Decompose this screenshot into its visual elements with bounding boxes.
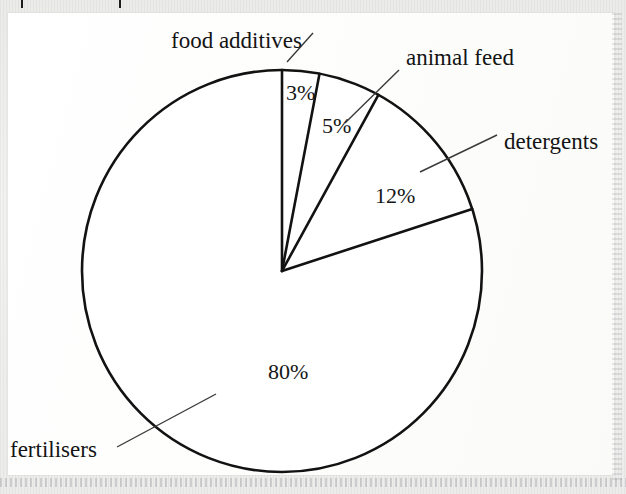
category-label-detergents: detergents [504, 129, 598, 154]
value-label-animal-feed: 5% [322, 113, 351, 138]
pie-chart-screenshot: food additives animal feed detergents fe… [0, 0, 626, 494]
category-label-fertilisers: fertilisers [10, 437, 97, 462]
value-label-food-additives: 3% [286, 80, 315, 105]
value-label-detergents: 12% [375, 183, 415, 208]
pie-figure: food additives animal feed detergents fe… [0, 0, 626, 494]
value-label-fertilisers: 80% [268, 359, 308, 384]
category-label-food-additives: food additives [171, 28, 302, 53]
category-label-animal-feed: animal feed [406, 45, 514, 70]
